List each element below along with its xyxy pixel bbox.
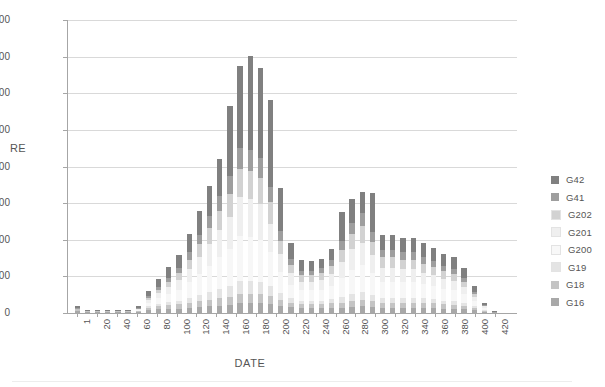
x-tick-label: 320: [399, 319, 410, 335]
bar-column: [431, 20, 436, 313]
bar-column: [319, 20, 324, 313]
bar-segment-G41: [380, 250, 385, 257]
bar-segment-G202: [370, 242, 375, 255]
bar-segment-G41: [248, 150, 253, 171]
x-tick-label: 1: [81, 319, 92, 324]
x-tick-label: 60: [141, 319, 152, 330]
x-tick-label: 280: [359, 319, 370, 335]
bar-segment-G201: [451, 281, 456, 291]
bar-column: [166, 20, 171, 313]
bar-segment-G41: [278, 231, 283, 241]
x-tick-mark: [415, 313, 416, 317]
bar-segment-G16: [237, 303, 242, 313]
bar-segment-G16: [441, 309, 446, 313]
legend-swatch-icon: [551, 210, 561, 220]
legend-swatch-icon: [551, 227, 561, 237]
bar-segment-G202: [309, 275, 314, 282]
bar-segment-G201: [197, 257, 202, 275]
bar-segment-G201: [187, 269, 192, 282]
bar-column: [360, 20, 365, 313]
bar-segment-G201: [237, 197, 242, 236]
x-tick-label: 420: [499, 319, 510, 335]
bar-segment-G201: [227, 217, 232, 249]
legend-label: G42: [566, 174, 585, 185]
bar-segment-G16: [207, 306, 212, 313]
bar-segment-G42: [360, 192, 365, 213]
bar-segment-G200: [370, 273, 375, 294]
x-tick-mark: [495, 313, 496, 317]
x-tick-mark: [316, 313, 317, 317]
bar-segment-G201: [217, 230, 222, 257]
bar-segment-G202: [360, 226, 365, 243]
bar-column: [258, 20, 263, 313]
bar-segment-G42: [227, 106, 232, 176]
x-tick-mark: [256, 313, 257, 317]
x-tick-mark: [77, 313, 78, 317]
bar-segment-G18: [227, 297, 232, 305]
x-tick-mark: [157, 313, 158, 317]
legend-item-G18[interactable]: G18: [551, 276, 592, 294]
bar-segment-G16: [187, 308, 192, 313]
bar-segment-G202: [380, 257, 385, 267]
y-tick-label: 200: [0, 234, 10, 245]
bar-segment-G200: [390, 282, 395, 298]
page-artifact-line: [12, 381, 572, 382]
bar-segment-G200: [176, 290, 181, 301]
bar-segment-G202: [288, 265, 293, 274]
x-tick-mark: [236, 313, 237, 317]
bar-segment-G201: [309, 282, 314, 291]
bar-segment-G42: [411, 238, 416, 253]
bar-segment-G16: [380, 308, 385, 313]
bar-segment-G200: [197, 274, 202, 295]
x-tick-label: 400: [479, 319, 490, 335]
bar-segment-G201: [339, 262, 344, 278]
bar-segment-G200: [166, 294, 171, 302]
legend-item-G202[interactable]: G202: [551, 206, 592, 224]
bar-segment-G200: [187, 282, 192, 297]
bar-segment-G202: [319, 273, 324, 280]
y-tick-label: 300: [0, 197, 10, 208]
legend-item-G41[interactable]: G41: [551, 189, 592, 207]
bar-segment-G42: [176, 255, 181, 268]
bar-column: [482, 20, 487, 313]
bar-segment-G19: [237, 281, 242, 294]
bar-segment-G41: [411, 252, 416, 259]
legend-label: G202: [568, 209, 592, 220]
bar-segment-G201: [411, 269, 416, 282]
bar-segment-G41: [349, 223, 354, 234]
legend-item-G16[interactable]: G16: [551, 294, 592, 312]
bar-segment-G202: [441, 271, 446, 278]
legend-label: G18: [566, 279, 585, 290]
bar-segment-G201: [176, 280, 181, 290]
bar-segment-G16: [319, 308, 324, 313]
bar-segment-G41: [227, 176, 232, 194]
x-tick-mark: [177, 313, 178, 317]
bar-segment-G16: [217, 306, 222, 313]
bar-segment-G16: [197, 307, 202, 313]
bar-segment-G18: [237, 294, 242, 304]
legend-item-G200[interactable]: G200: [551, 241, 592, 259]
bar-column: [237, 20, 242, 313]
bar-segment-G200: [217, 257, 222, 288]
legend-swatch-icon: [551, 262, 561, 272]
bar-segment-G202: [411, 260, 416, 270]
bar-column: [125, 20, 130, 313]
legend-item-G201[interactable]: G201: [551, 224, 592, 242]
bar-segment-G201: [268, 224, 273, 253]
legend-item-G42[interactable]: G42: [551, 171, 592, 189]
y-tick-label: 800: [0, 14, 10, 25]
bar-segment-G201: [299, 282, 304, 291]
bar-column: [461, 20, 466, 313]
bar-segment-G202: [339, 250, 344, 262]
bar-segment-G201: [166, 287, 171, 294]
legend-item-G19[interactable]: G19: [551, 259, 592, 277]
x-tick-label: 220: [300, 319, 311, 335]
bar-segment-G202: [207, 228, 212, 244]
x-tick-mark: [296, 313, 297, 317]
bar-segment-G18: [360, 300, 365, 307]
bar-segment-G201: [360, 243, 365, 266]
bar-segment-G200: [258, 240, 263, 282]
bar-segment-G201: [349, 249, 354, 270]
bar-segment-G201: [248, 199, 253, 237]
bar-column: [207, 20, 212, 313]
